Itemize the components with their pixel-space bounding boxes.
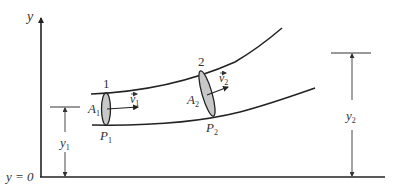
height-2-label: y2 (344, 108, 356, 125)
section-1-number: 1 (103, 76, 110, 91)
area-1-label: A1 (87, 101, 100, 118)
velocity-arrow-1 (107, 107, 138, 109)
cross-section-2 (196, 70, 219, 118)
velocity-1-label: v1 (130, 92, 139, 108)
section-2-number: 2 (198, 54, 205, 69)
velocity-2-label: v2 (219, 71, 228, 87)
area-2-label: A2 (186, 92, 199, 109)
origin-label: y = 0 (4, 169, 34, 184)
bernoulli-diagram: y y = 0 1 A1 v1 P1 2 A2 v2 P2 y1 (0, 0, 400, 191)
pipe-upper-wall (91, 28, 282, 94)
pressure-2-label: P2 (205, 120, 218, 137)
y-axis-label: y (25, 9, 34, 24)
height-1-label: y1 (58, 135, 70, 152)
pressure-1-label: P1 (99, 128, 112, 145)
